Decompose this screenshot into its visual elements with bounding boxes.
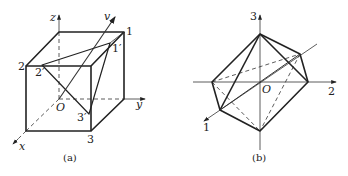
edge-top-lowerleft [220, 34, 260, 110]
figure-a-cube: z v 1 1′ 2 2′ O 3′ 3 y x (a) [13, 10, 145, 163]
x-axis-arrow [13, 139, 18, 144]
label-vertex-1-prime: 1′ [112, 42, 122, 55]
triangle-1p-2p-3p [42, 43, 110, 114]
label-origin-a: O [56, 101, 65, 114]
label-axis-2: 2 [328, 85, 335, 98]
hidden-edge-x [26, 99, 59, 131]
label-axis-3: 3 [250, 10, 257, 23]
figure-canvas: z v 1 1′ 2 2′ O 3′ 3 y x (a) 3 2 1 O (b) [0, 0, 348, 176]
caption-b: (b) [252, 152, 266, 163]
label-v: v [104, 10, 111, 23]
label-vertex-2-prime: 2′ [35, 66, 45, 79]
label-x: x [19, 140, 26, 153]
label-vertex-2: 2 [18, 60, 25, 73]
label-axis-1: 1 [203, 121, 210, 134]
label-y: y [135, 98, 143, 111]
label-origin-b: O [262, 83, 271, 96]
label-z: z [49, 11, 56, 24]
figure-b-projection: 3 2 1 O (b) [193, 10, 336, 163]
label-vertex-3: 3 [87, 133, 94, 146]
cube-top-face [26, 32, 124, 66]
label-vertex-1: 1 [126, 25, 133, 38]
label-vertex-3-prime: 3′ [77, 111, 87, 124]
caption-a: (a) [63, 152, 77, 163]
v-vector-arrow [59, 17, 115, 99]
